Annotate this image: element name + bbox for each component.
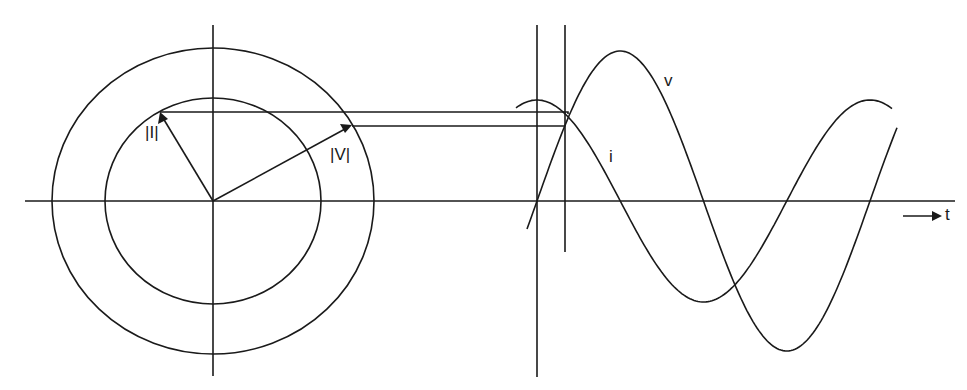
- current-phasor-arrowhead-icon: [158, 112, 168, 124]
- current-wave-label: i: [609, 148, 613, 165]
- current-phasor: [163, 118, 213, 201]
- voltage-wave-label: v: [664, 72, 673, 89]
- current-phasor-label: |I|: [145, 124, 159, 141]
- current-projection-line: [160, 112, 568, 114]
- phasor-waveform-diagram: [0, 0, 967, 390]
- voltage-phasor-label: |V|: [330, 146, 350, 163]
- voltage-phasor: [213, 129, 345, 201]
- time-arrowhead-icon: [932, 211, 942, 221]
- time-axis-label: t: [945, 206, 950, 223]
